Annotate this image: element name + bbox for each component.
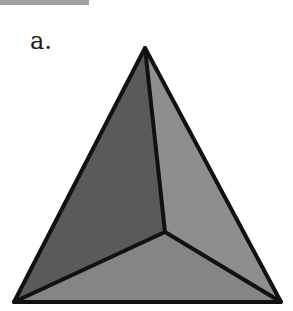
tetrahedron-figure [0,0,293,311]
